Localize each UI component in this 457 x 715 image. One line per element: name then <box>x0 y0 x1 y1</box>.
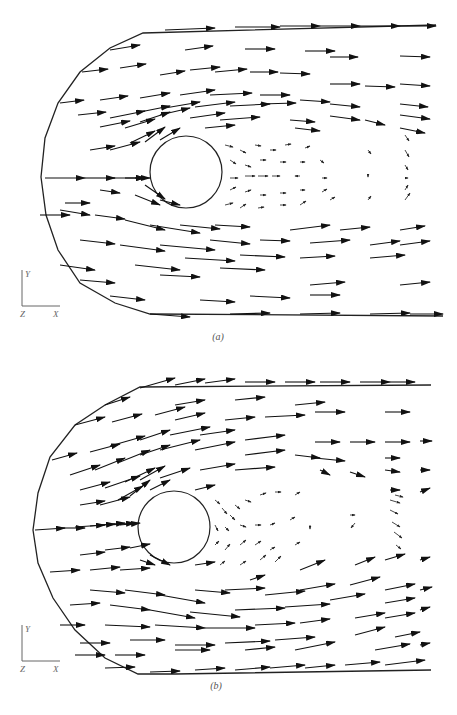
velocity-arrow <box>75 417 105 425</box>
velocity-arrow <box>300 619 330 623</box>
velocity-arrow <box>300 560 325 570</box>
velocity-arrow <box>235 667 270 670</box>
velocity-arrow <box>400 241 430 245</box>
velocity-arrow <box>280 73 310 74</box>
velocity-arrow <box>195 590 230 593</box>
velocity-arrow <box>220 268 265 270</box>
velocity-arrow <box>100 96 128 100</box>
velocity-arrow <box>350 577 380 585</box>
wake-velocity-arrow <box>394 532 402 538</box>
velocity-arrow <box>150 610 195 618</box>
wake-velocity-arrow <box>240 525 246 527</box>
velocity-arrow <box>140 430 170 440</box>
velocity-arrow <box>330 594 365 600</box>
wake-velocity-arrow <box>405 135 409 141</box>
velocity-arrow <box>365 86 395 87</box>
velocity-arrow <box>205 379 235 383</box>
velocity-arrow <box>265 415 305 417</box>
velocity-arrow <box>295 455 320 458</box>
wake-velocity-arrow <box>258 207 264 208</box>
velocity-arrow <box>300 100 330 102</box>
domain-boundary <box>41 25 443 316</box>
velocity-arrow <box>165 28 215 30</box>
velocity-arrow <box>200 300 235 302</box>
velocity-arrow <box>235 467 275 470</box>
axis-z-label: Z <box>20 309 26 319</box>
wake-velocity-arrow <box>240 150 246 153</box>
wake-velocity-arrow <box>295 492 300 495</box>
velocity-arrow <box>310 282 345 285</box>
velocity-arrow <box>310 240 350 243</box>
velocity-arrow <box>60 100 84 103</box>
velocity-arrow <box>230 313 270 314</box>
velocity-arrow <box>125 119 155 128</box>
velocity-arrow <box>350 472 365 477</box>
velocity-arrow <box>385 470 400 472</box>
velocity-arrow <box>78 112 106 115</box>
axis-y-label: Y <box>25 624 31 634</box>
velocity-arrow <box>90 444 120 452</box>
wake-velocity-arrow <box>230 160 236 164</box>
wake-velocity-arrow <box>270 523 275 525</box>
wake-velocity-arrow <box>225 544 230 550</box>
velocity-arrow <box>185 258 235 261</box>
wake-velocity-arrow <box>322 189 327 192</box>
axis-z-label: Z <box>20 664 26 674</box>
wake-velocity-arrow <box>215 541 219 545</box>
velocity-arrow <box>120 450 150 462</box>
wake-velocity-arrow <box>225 527 229 531</box>
velocity-arrow <box>195 668 225 670</box>
wake-velocity-arrow <box>390 500 400 503</box>
axis-x-label: X <box>52 664 59 674</box>
velocity-arrow <box>160 440 200 450</box>
velocity-arrow <box>185 46 213 50</box>
velocity-arrow <box>160 245 215 250</box>
velocity-arrow <box>235 397 265 400</box>
wake-velocity-arrow <box>245 190 251 192</box>
velocity-arrow <box>100 121 130 127</box>
velocity-arrow <box>225 417 255 420</box>
velocity-arrow <box>80 280 115 283</box>
velocity-arrow <box>300 256 335 258</box>
wake-velocity-arrow <box>230 515 235 520</box>
wake-velocity-arrow <box>368 150 371 154</box>
velocity-arrow <box>365 120 385 125</box>
velocity-arrow <box>420 587 432 590</box>
velocity-arrow <box>420 488 430 492</box>
velocity-arrow <box>370 241 400 245</box>
velocity-arrow <box>120 64 146 68</box>
wake-velocity-arrow <box>222 508 227 514</box>
velocity-arrow <box>260 103 296 104</box>
velocity-arrow <box>400 282 430 285</box>
velocity-arrow <box>255 623 295 625</box>
velocity-arrow <box>195 485 215 490</box>
velocity-arrow <box>420 607 430 610</box>
velocity-arrow <box>140 106 170 112</box>
velocity-arrow <box>385 584 415 590</box>
velocity-arrow <box>420 643 430 645</box>
velocity-arrow <box>245 450 285 455</box>
velocity-arrow <box>180 225 220 229</box>
velocity-arrow <box>70 603 100 605</box>
velocity-arrow <box>160 468 190 478</box>
wake-velocity-arrow <box>405 150 409 157</box>
wake-velocity-arrow <box>245 500 251 502</box>
velocity-arrow <box>400 56 430 57</box>
velocity-arrow <box>210 93 252 95</box>
velocity-arrow <box>90 567 120 570</box>
wake-velocity-arrow <box>390 510 398 514</box>
velocity-arrow <box>210 240 250 244</box>
velocity-arrow <box>155 625 205 628</box>
velocity-arrow <box>175 413 205 420</box>
wake-velocity-arrow <box>305 146 310 148</box>
velocity-arrow <box>375 644 410 650</box>
velocity-arrow <box>80 240 115 244</box>
panel-b-caption: (b) <box>196 680 236 691</box>
wake-velocity-arrow <box>240 561 246 565</box>
velocity-arrow <box>125 220 165 230</box>
wake-velocity-arrow <box>300 201 306 205</box>
velocity-arrow <box>370 255 405 258</box>
velocity-arrow <box>140 560 155 565</box>
velocity-arrow <box>240 255 285 257</box>
wake-velocity-arrow <box>270 547 275 550</box>
